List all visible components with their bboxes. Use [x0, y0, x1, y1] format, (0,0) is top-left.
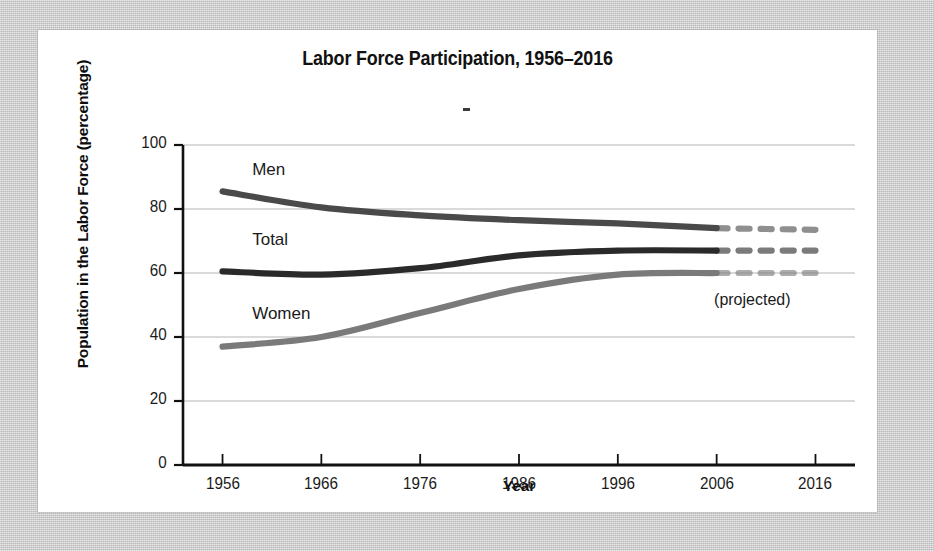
y-tick-label-20: 20	[113, 390, 166, 408]
x-tick-label-2006: 2006	[679, 475, 755, 493]
series-label-women: Women	[252, 304, 310, 324]
x-tick-label-1956: 1956	[185, 475, 261, 493]
series-projected-men	[717, 228, 816, 230]
x-tick-label-1996: 1996	[580, 475, 656, 493]
y-tick-label-100: 100	[113, 134, 166, 152]
series-label-total: Total	[252, 230, 288, 250]
x-tick-label-1966: 1966	[283, 475, 359, 493]
x-tick-label-1976: 1976	[382, 475, 458, 493]
y-tick-label-40: 40	[113, 326, 166, 344]
series-label-men: Men	[252, 160, 285, 180]
y-tick-label-60: 60	[113, 262, 166, 280]
series-line-men	[223, 191, 717, 228]
x-tick-label-2016: 2016	[777, 475, 853, 493]
annotation-projected: (projected)	[714, 291, 790, 309]
figure-root: Labor Force Participation, 1956–2016 Pop…	[0, 0, 934, 551]
y-tick-label-0: 0	[113, 454, 166, 472]
series-lines	[223, 191, 816, 346]
chart-panel: Labor Force Participation, 1956–2016 Pop…	[38, 30, 877, 512]
x-tick-label-1986: 1986	[481, 475, 557, 493]
y-tick-label-80: 80	[113, 198, 166, 216]
